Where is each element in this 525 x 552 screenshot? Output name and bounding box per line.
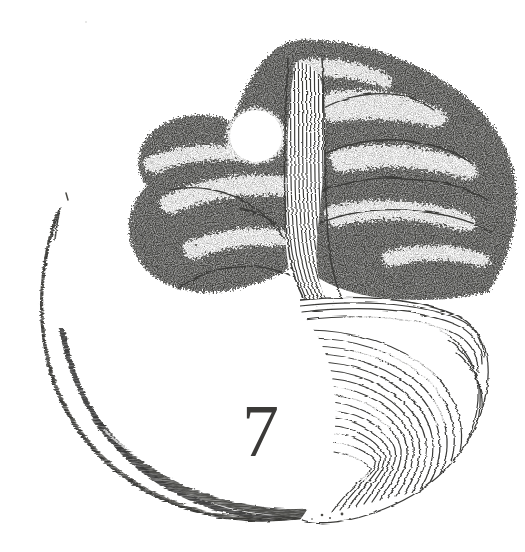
arc-start-tick: [66, 193, 68, 200]
chapter-number-value: 7: [242, 394, 279, 468]
chapter-number: 7: [0, 394, 525, 468]
moon-gap: [230, 110, 282, 162]
illustration-page: 7: [0, 0, 525, 552]
